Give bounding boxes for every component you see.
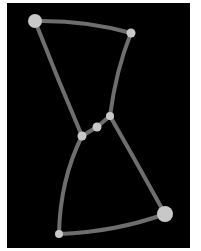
edge-a-b [35,21,131,33]
edge-b-c [110,33,131,116]
graph-diagram [0,0,201,251]
node-d [93,123,102,132]
node-c [106,112,114,120]
node-g [55,230,63,238]
edge-e-g [59,136,82,234]
node-b [127,29,136,38]
node-a [28,14,42,28]
node-e [78,132,87,141]
edge-a-e [35,21,82,136]
edge-c-f [110,116,165,214]
node-f [157,206,173,222]
edge-g-f [59,214,165,234]
